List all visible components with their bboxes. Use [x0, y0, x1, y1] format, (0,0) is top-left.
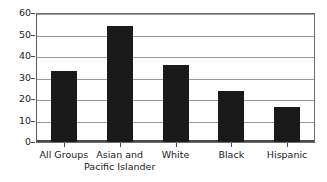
x-axis-tick-label: All Groups	[40, 149, 89, 161]
x-axis-tick-mark	[120, 143, 121, 147]
x-axis-tick-label-line: All Groups	[40, 149, 89, 160]
x-axis-tick-label-line: Black	[218, 149, 244, 160]
y-axis-ticks	[0, 13, 36, 143]
y-axis-tick-mark	[31, 13, 35, 14]
bar	[163, 65, 189, 142]
bar	[218, 91, 244, 142]
y-axis-tick-mark	[31, 35, 35, 36]
bar	[107, 26, 133, 142]
y-axis-tick-mark	[31, 99, 35, 100]
x-axis-tick-mark	[64, 143, 65, 147]
x-axis-tick-label: Hispanic	[267, 149, 307, 161]
x-axis-tick-label: Asian andPacific Islander	[84, 149, 155, 172]
y-axis-tick-mark	[31, 142, 35, 143]
x-axis-tick-label: Black	[218, 149, 244, 161]
bar-chart: 0102030405060 All GroupsAsian andPacific…	[0, 0, 327, 182]
x-axis-tick-label-line: White	[162, 149, 190, 160]
x-axis-tick-label: White	[162, 149, 190, 161]
x-axis-tick-label-line: Hispanic	[267, 149, 307, 160]
x-axis-tick-mark	[287, 143, 288, 147]
x-axis-tick-mark	[176, 143, 177, 147]
x-axis-labels: All GroupsAsian andPacific IslanderWhite…	[36, 149, 315, 182]
y-axis-tick-mark	[31, 78, 35, 79]
x-axis-tick-label-line: Pacific Islander	[84, 161, 155, 173]
x-axis-tick-label-line: Asian and	[96, 149, 143, 160]
bar	[274, 107, 300, 142]
x-axis-ticks	[36, 143, 315, 148]
y-axis-tick-mark	[31, 56, 35, 57]
x-axis-tick-mark	[231, 143, 232, 147]
y-axis-tick-mark	[31, 121, 35, 122]
bar-series	[36, 13, 315, 143]
bar	[51, 71, 77, 142]
